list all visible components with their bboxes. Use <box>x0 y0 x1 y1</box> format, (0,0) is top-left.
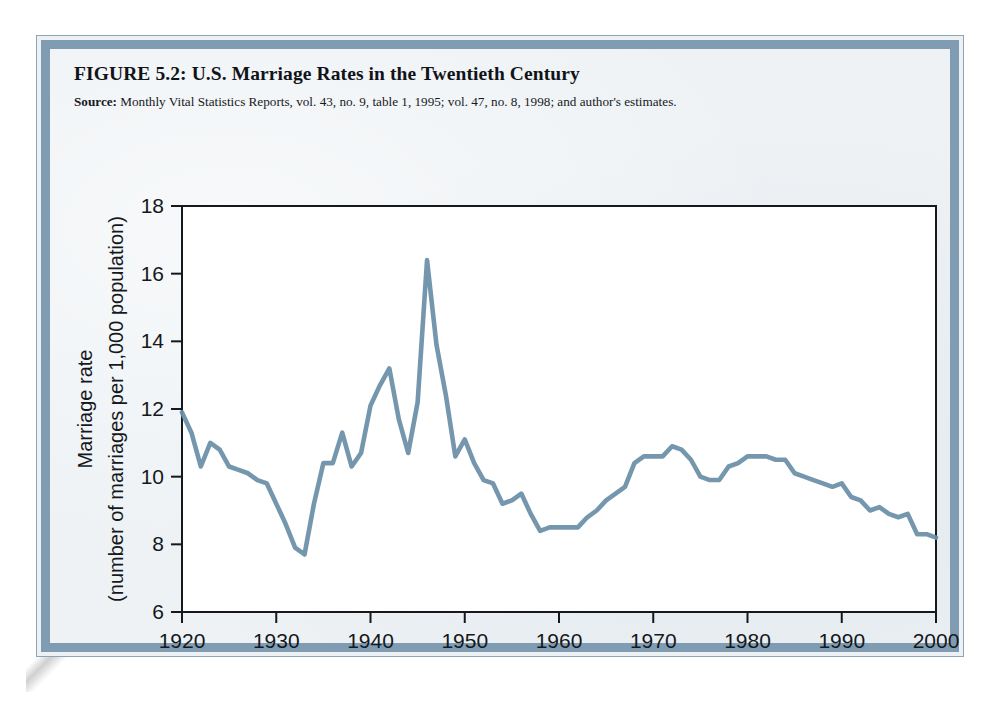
y-tick-label: 8 <box>152 532 164 555</box>
y-tick-label: 16 <box>141 262 164 285</box>
x-tick-label: 1950 <box>441 629 488 652</box>
x-tick-label: 2000 <box>913 629 960 652</box>
plot-frame <box>182 206 936 612</box>
y-tick-label: 14 <box>141 329 165 352</box>
x-tick-label: 1980 <box>724 629 771 652</box>
x-tick-label: 1940 <box>347 629 394 652</box>
x-tick-label: 1970 <box>630 629 677 652</box>
x-tick-label: 1920 <box>159 629 206 652</box>
x-tick-label: 1990 <box>818 629 865 652</box>
chart-region: 681012141618 192019301940195019601970198… <box>50 145 960 661</box>
figure-content: FIGURE 5.2: U.S. Marriage Rates in the T… <box>50 49 950 643</box>
figure-plate: FIGURE 5.2: U.S. Marriage Rates in the T… <box>36 35 964 657</box>
figure-source-label: Source: <box>74 94 117 109</box>
scanned-page: FIGURE 5.2: U.S. Marriage Rates in the T… <box>0 0 996 715</box>
y-tick-label: 18 <box>141 194 164 217</box>
figure-source-text: Monthly Vital Statistics Reports, vol. 4… <box>117 94 677 109</box>
y-axis-title: Marriage rate(number of marriages per 1,… <box>74 216 127 602</box>
y-tick-label: 6 <box>152 600 164 623</box>
x-tick-label: 1960 <box>536 629 583 652</box>
figure-source: Source: Monthly Vital Statistics Reports… <box>74 94 932 110</box>
figure-title: FIGURE 5.2: U.S. Marriage Rates in the T… <box>74 63 932 85</box>
figure-border-band: FIGURE 5.2: U.S. Marriage Rates in the T… <box>41 40 959 652</box>
y-tick-label: 12 <box>141 397 164 420</box>
y-axis-title-line1: Marriage rate <box>74 350 96 469</box>
y-axis-ticks: 681012141618 <box>141 194 182 623</box>
x-tick-label: 1930 <box>253 629 300 652</box>
marriage-rate-line-chart: 681012141618 192019301940195019601970198… <box>50 145 960 661</box>
x-axis-ticks: 192019301940195019601970198019902000 <box>159 612 960 652</box>
figure-heading: FIGURE 5.2: U.S. Marriage Rates in the T… <box>74 63 932 110</box>
y-tick-label: 10 <box>141 465 164 488</box>
y-axis-title-line2: (number of marriages per 1,000 populatio… <box>105 216 127 602</box>
